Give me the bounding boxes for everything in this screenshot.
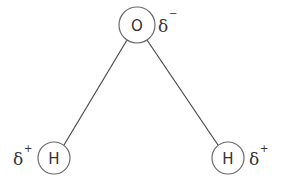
oxygen-partial-charge: δ	[158, 16, 168, 36]
hydrogen-right-charge-sign: +	[260, 143, 268, 154]
water-molecule-diagram: O δ − H δ + H δ +	[0, 0, 282, 182]
bond-o-h-right	[147, 40, 218, 145]
oxygen-charge-sign: −	[169, 8, 177, 19]
oxygen-symbol: O	[131, 17, 143, 35]
hydrogen-left-charge-sign: +	[24, 143, 32, 154]
atom-hydrogen-right: H δ +	[212, 142, 268, 174]
bond-o-h-left	[64, 40, 127, 145]
hydrogen-left-partial-charge: δ	[13, 149, 23, 169]
atom-hydrogen-left: H δ +	[13, 142, 70, 174]
hydrogen-right-symbol: H	[222, 150, 233, 168]
hydrogen-right-partial-charge: δ	[249, 149, 259, 169]
atom-oxygen: O δ −	[119, 7, 177, 43]
hydrogen-left-symbol: H	[48, 150, 59, 168]
